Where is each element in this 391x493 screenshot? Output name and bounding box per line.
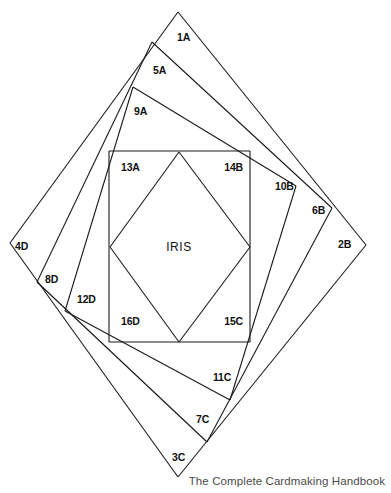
piece-label-3c: 3C [172, 451, 186, 463]
piece-label-4d: 4D [15, 240, 29, 252]
piece-label-14b: 14B [224, 161, 243, 173]
piece-label-2b: 2B [338, 238, 352, 250]
piece-label-11c: 11C [213, 371, 232, 383]
piece-label-5a: 5A [153, 64, 167, 76]
iris-folding-diagram: 1A5A9A13A14B10B6B2B15C11C7C3C16D12D8D4D … [0, 0, 391, 493]
piece-label-13a: 13A [121, 161, 140, 173]
iris-center-label: IRIS [166, 240, 192, 254]
piece-label-1a: 1A [177, 31, 191, 43]
piece-label-16d: 16D [121, 315, 140, 327]
source-caption: The Complete Cardmaking Handbook [189, 475, 385, 487]
pattern-canvas: 1A5A9A13A14B10B6B2B15C11C7C3C16D12D8D4D … [0, 0, 391, 493]
piece-label-10b: 10B [275, 180, 294, 192]
piece-label-6b: 6B [312, 204, 326, 216]
piece-label-12d: 12D [77, 293, 96, 305]
piece-label-9a: 9A [134, 105, 148, 117]
piece-label-8d: 8D [45, 273, 59, 285]
piece-label-15c: 15C [224, 315, 243, 327]
piece-label-7c: 7C [196, 413, 210, 425]
